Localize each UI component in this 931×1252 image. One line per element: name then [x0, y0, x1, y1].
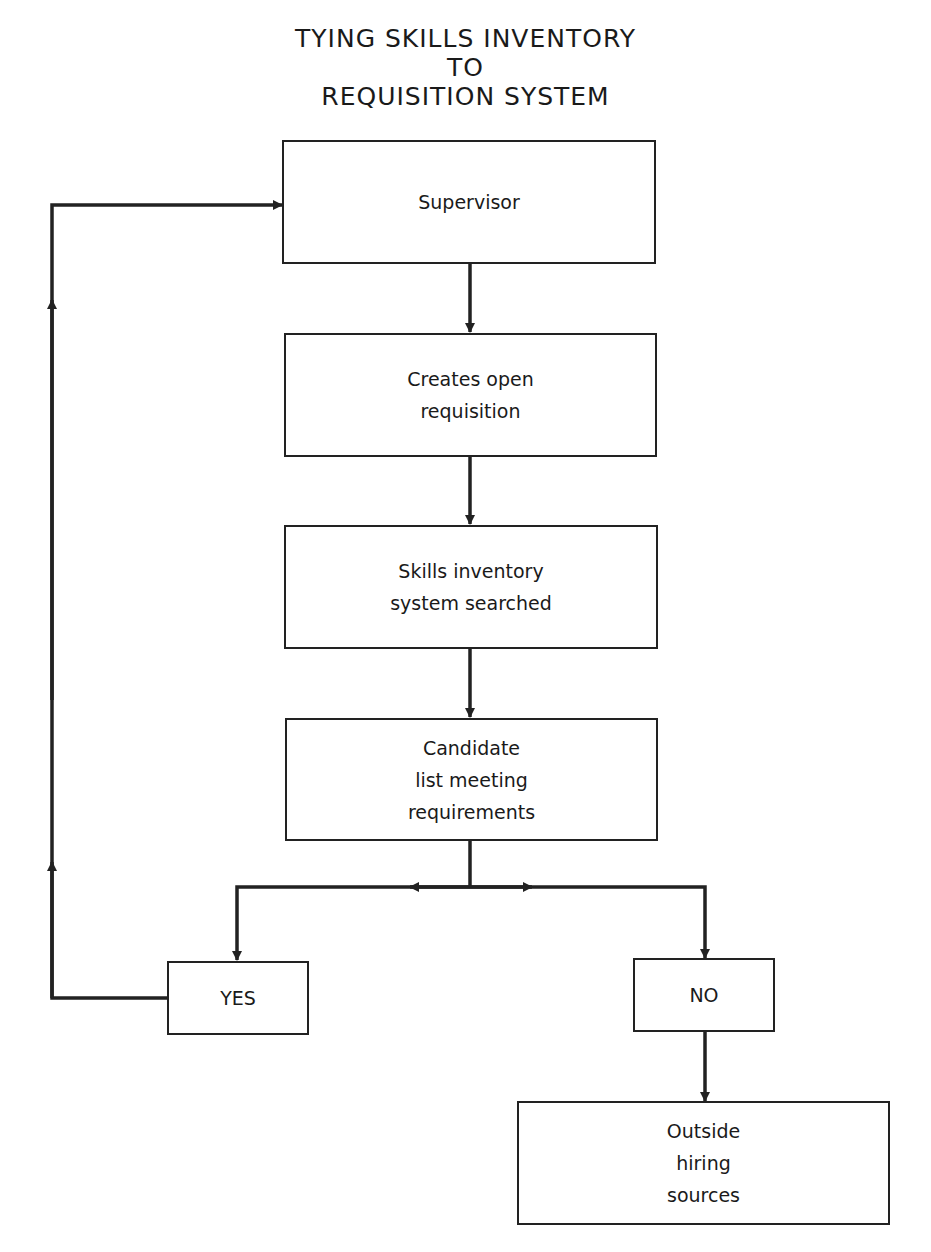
node-outside-hiring: Outside hiring sources [517, 1101, 890, 1225]
node-no-label: NO [689, 979, 718, 1011]
node-supervisor: Supervisor [282, 140, 656, 264]
node-candidate-list: Candidate list meeting requirements [285, 718, 658, 841]
node-candidate-list-label: Candidate list meeting requirements [408, 732, 535, 828]
node-creates-requisition: Creates open requisition [284, 333, 657, 457]
node-skills-search: Skills inventory system searched [284, 525, 658, 649]
node-yes: YES [167, 961, 309, 1035]
node-outside-hiring-label: Outside hiring sources [667, 1115, 740, 1211]
node-creates-requisition-label: Creates open requisition [407, 363, 534, 427]
arrow-yes-loop-to-supervisor [52, 205, 282, 998]
node-skills-search-label: Skills inventory system searched [390, 555, 552, 619]
node-yes-label: YES [220, 982, 256, 1014]
node-no: NO [633, 958, 775, 1032]
arrow-to-yes [237, 887, 470, 960]
arrow-to-no [470, 887, 705, 958]
node-supervisor-label: Supervisor [418, 186, 520, 218]
